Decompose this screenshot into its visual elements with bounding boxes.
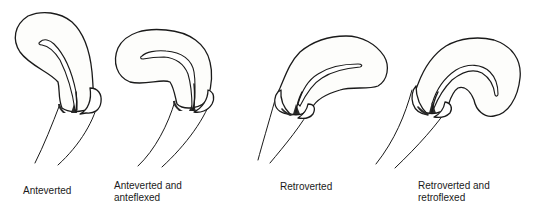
label-retroverted-retroflexed-line1: Retroverted and: [418, 180, 490, 192]
label-anteverted-anteflexed: Anteverted and anteflexed: [114, 180, 182, 204]
panel-retroverted-retroflexed-drawing: [376, 38, 520, 168]
label-anteverted-anteflexed-line2: anteflexed: [114, 192, 182, 204]
uterine-positions-diagram: Anteverted Anteverted and anteflexed Ret…: [0, 0, 534, 209]
label-retroverted-line1: Retroverted: [280, 181, 332, 192]
label-anteverted-anteflexed-line1: Anteverted and: [114, 180, 182, 192]
panel-anteverted-drawing: [15, 13, 101, 165]
diagram-artwork: [0, 0, 534, 209]
label-retroverted: Retroverted: [280, 181, 332, 193]
label-anteverted: Anteverted: [23, 185, 71, 197]
panel-retroverted-drawing: [258, 36, 387, 163]
label-retroverted-retroflexed: Retroverted and retroflexed: [418, 180, 490, 204]
label-anteverted-line1: Anteverted: [23, 185, 71, 196]
label-retroverted-retroflexed-line2: retroflexed: [418, 192, 490, 204]
panel-anteverted-anteflexed-drawing: [115, 30, 213, 167]
